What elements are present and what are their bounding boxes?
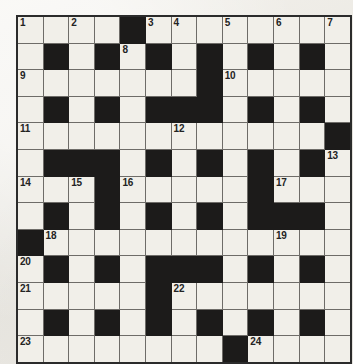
- crossword-cell[interactable]: [325, 70, 351, 97]
- crossword-cell[interactable]: [69, 309, 95, 336]
- crossword-cell[interactable]: [43, 336, 69, 363]
- crossword-cell[interactable]: 23: [17, 336, 43, 363]
- crossword-cell[interactable]: 13: [325, 149, 351, 176]
- crossword-cell[interactable]: [145, 70, 171, 97]
- crossword-cell[interactable]: 1: [17, 16, 43, 43]
- crossword-cell[interactable]: [273, 149, 299, 176]
- crossword-cell[interactable]: [197, 229, 223, 256]
- crossword-cell[interactable]: [222, 149, 248, 176]
- crossword-cell[interactable]: [273, 96, 299, 123]
- crossword-cell[interactable]: [273, 256, 299, 283]
- crossword-cell[interactable]: 12: [171, 123, 197, 150]
- crossword-cell[interactable]: [299, 16, 325, 43]
- crossword-cell[interactable]: [69, 256, 95, 283]
- crossword-cell[interactable]: [17, 309, 43, 336]
- crossword-cell[interactable]: [69, 43, 95, 70]
- crossword-cell[interactable]: [325, 96, 351, 123]
- crossword-cell[interactable]: [273, 70, 299, 97]
- crossword-cell[interactable]: [299, 336, 325, 363]
- crossword-cell[interactable]: [222, 176, 248, 203]
- crossword-cell[interactable]: [120, 123, 146, 150]
- crossword-cell[interactable]: [273, 123, 299, 150]
- crossword-cell[interactable]: [325, 256, 351, 283]
- crossword-cell[interactable]: 10: [222, 70, 248, 97]
- crossword-cell[interactable]: 15: [69, 176, 95, 203]
- crossword-cell[interactable]: [273, 309, 299, 336]
- crossword-cell[interactable]: [197, 336, 223, 363]
- crossword-cell[interactable]: 18: [43, 229, 69, 256]
- crossword-cell[interactable]: [120, 336, 146, 363]
- crossword-cell[interactable]: [94, 282, 120, 309]
- crossword-cell[interactable]: [69, 96, 95, 123]
- crossword-cell[interactable]: [43, 176, 69, 203]
- crossword-cell[interactable]: [197, 282, 223, 309]
- crossword-cell[interactable]: [248, 123, 274, 150]
- crossword-cell[interactable]: [325, 336, 351, 363]
- crossword-cell[interactable]: [248, 16, 274, 43]
- crossword-cell[interactable]: [248, 70, 274, 97]
- crossword-cell[interactable]: 9: [17, 70, 43, 97]
- crossword-cell[interactable]: 3: [145, 16, 171, 43]
- crossword-cell[interactable]: [171, 149, 197, 176]
- crossword-cell[interactable]: [248, 229, 274, 256]
- crossword-cell[interactable]: [145, 336, 171, 363]
- crossword-cell[interactable]: [222, 96, 248, 123]
- crossword-cell[interactable]: [222, 123, 248, 150]
- crossword-cell[interactable]: [222, 43, 248, 70]
- crossword-cell[interactable]: [325, 309, 351, 336]
- crossword-cell[interactable]: [120, 70, 146, 97]
- crossword-cell[interactable]: [273, 282, 299, 309]
- crossword-cell[interactable]: [325, 43, 351, 70]
- crossword-cell[interactable]: 24: [248, 336, 274, 363]
- crossword-cell[interactable]: [94, 336, 120, 363]
- crossword-cell[interactable]: 8: [120, 43, 146, 70]
- crossword-cell[interactable]: 5: [222, 16, 248, 43]
- crossword-cell[interactable]: [299, 176, 325, 203]
- crossword-cell[interactable]: [197, 16, 223, 43]
- crossword-cell[interactable]: [43, 123, 69, 150]
- crossword-cell[interactable]: [222, 309, 248, 336]
- crossword-cell[interactable]: 21: [17, 282, 43, 309]
- crossword-cell[interactable]: 6: [273, 16, 299, 43]
- crossword-cell[interactable]: [69, 282, 95, 309]
- crossword-cell[interactable]: [222, 203, 248, 230]
- crossword-cell[interactable]: [299, 70, 325, 97]
- crossword-cell[interactable]: 2: [69, 16, 95, 43]
- crossword-cell[interactable]: [299, 282, 325, 309]
- crossword-cell[interactable]: 22: [171, 282, 197, 309]
- crossword-grid-container[interactable]: 123456789101112131415161718192021222324: [16, 15, 338, 350]
- crossword-cell[interactable]: [94, 70, 120, 97]
- crossword-cell[interactable]: 20: [17, 256, 43, 283]
- crossword-cell[interactable]: [222, 256, 248, 283]
- crossword-cell[interactable]: [43, 16, 69, 43]
- crossword-cell[interactable]: [120, 149, 146, 176]
- crossword-cell[interactable]: [325, 282, 351, 309]
- crossword-cell[interactable]: 17: [273, 176, 299, 203]
- crossword-cell[interactable]: 4: [171, 16, 197, 43]
- crossword-cell[interactable]: [17, 96, 43, 123]
- crossword-cell[interactable]: [222, 282, 248, 309]
- crossword-cell[interactable]: 19: [273, 229, 299, 256]
- crossword-cell[interactable]: [120, 203, 146, 230]
- crossword-cell[interactable]: [120, 96, 146, 123]
- crossword-cell[interactable]: [94, 123, 120, 150]
- crossword-cell[interactable]: [17, 43, 43, 70]
- crossword-cell[interactable]: [120, 256, 146, 283]
- crossword-cell[interactable]: [69, 70, 95, 97]
- crossword-cell[interactable]: [299, 229, 325, 256]
- crossword-cell[interactable]: [273, 43, 299, 70]
- crossword-cell[interactable]: [248, 282, 274, 309]
- crossword-cell[interactable]: [171, 176, 197, 203]
- crossword-cell[interactable]: [171, 229, 197, 256]
- crossword-grid[interactable]: 123456789101112131415161718192021222324: [16, 15, 352, 364]
- crossword-cell[interactable]: [94, 16, 120, 43]
- crossword-cell[interactable]: [43, 282, 69, 309]
- crossword-cell[interactable]: [43, 70, 69, 97]
- crossword-cell[interactable]: [17, 203, 43, 230]
- crossword-cell[interactable]: [299, 123, 325, 150]
- crossword-cell[interactable]: [197, 176, 223, 203]
- crossword-cell[interactable]: [197, 123, 223, 150]
- crossword-cell[interactable]: [69, 336, 95, 363]
- crossword-cell[interactable]: [69, 123, 95, 150]
- crossword-cell[interactable]: [171, 203, 197, 230]
